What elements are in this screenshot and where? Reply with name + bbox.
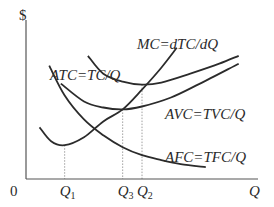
tick-label-q1: Q1: [60, 183, 76, 201]
atc-label: ATC=TC/Q: [49, 67, 121, 83]
afc-label: AFC=TFC/Q: [164, 149, 246, 165]
cost-curves-chart: $ Q 0 Q1Q3Q2 ATC=TC/Q MC=dTC/dQ AVC=TVC/…: [0, 0, 274, 207]
tick-label-q3: Q3: [118, 183, 134, 201]
mc-curve: [40, 48, 177, 146]
x-axis-label: Q: [249, 183, 260, 199]
tick-label-q2: Q2: [137, 183, 153, 201]
avc-label: AVC=TVC/Q: [164, 106, 245, 122]
mc-label: MC=dTC/dQ: [136, 36, 218, 52]
x-ticks: Q1Q3Q2: [60, 183, 153, 201]
origin-label: 0: [10, 183, 18, 199]
y-axis-label: $: [19, 7, 27, 23]
guide-lines: [65, 85, 142, 179]
